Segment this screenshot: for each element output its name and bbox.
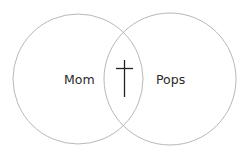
cross-icon	[116, 60, 133, 97]
venn-diagram	[0, 0, 246, 156]
pops-label: Pops	[156, 74, 185, 87]
mom-label: Mom	[64, 74, 95, 87]
